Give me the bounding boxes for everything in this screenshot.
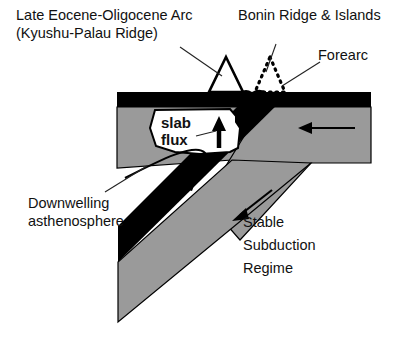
label-regime-line2: Subduction	[243, 237, 316, 253]
label-bonin-ridge: Bonin Ridge & Islands	[238, 7, 381, 23]
label-downwelling-line2: asthenosphere	[28, 213, 124, 229]
label-forearc: Forearc	[318, 47, 368, 63]
leader-arc	[180, 47, 222, 76]
diagram-canvas: Late Eocene-Oligocene Arc (Kyushu-Palau …	[0, 0, 411, 346]
label-arc-line1: Late Eocene-Oligocene Arc	[16, 7, 193, 23]
subduction-diagram: Late Eocene-Oligocene Arc (Kyushu-Palau …	[0, 0, 411, 346]
label-slab-flux-line2: flux	[161, 131, 188, 148]
label-slab-flux-line1: slab	[161, 114, 191, 131]
label-arc-line2: (Kyushu-Palau Ridge)	[16, 25, 158, 41]
label-regime-line3: Regime	[243, 260, 293, 276]
leader-downwelling	[105, 166, 147, 192]
leader-forearc	[282, 62, 320, 86]
arc-volcano-icon	[209, 57, 243, 92]
label-downwelling-line1: Downwelling	[28, 195, 109, 211]
label-regime-line1: Stable	[243, 214, 284, 230]
